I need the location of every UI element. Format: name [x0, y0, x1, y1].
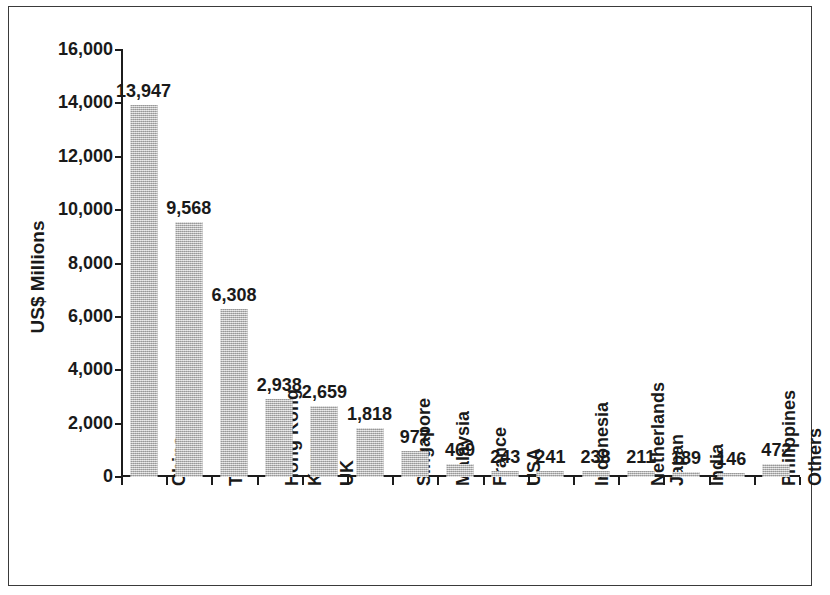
bar-group: 2,659UK — [302, 50, 347, 477]
bar-group: 238Netherlands — [573, 50, 618, 477]
bar-group: 6,308Hong Kong — [211, 50, 256, 477]
bar — [672, 472, 699, 477]
bar-value-label: 6,308 — [211, 285, 256, 306]
bar-value-label: 2,938 — [257, 375, 302, 396]
bar-value-label: 146 — [716, 449, 746, 470]
bar — [627, 471, 654, 477]
bar — [537, 471, 564, 477]
bar-value-label: 469 — [445, 440, 475, 461]
bar-value-label: 2,659 — [302, 382, 347, 403]
bar-group: 472Others — [754, 50, 799, 477]
bar — [130, 105, 157, 477]
y-axis-tick-label: 0 — [103, 466, 113, 487]
plot-area: 16,00014,00012,00010,0008,0006,0004,0002… — [121, 50, 799, 477]
bar — [356, 428, 383, 477]
bar-group: 469France — [437, 50, 482, 477]
y-axis-tick-label: 4,000 — [68, 359, 113, 380]
bar-group: 211Japan — [618, 50, 663, 477]
y-axis-tick-label: 10,000 — [58, 199, 113, 220]
y-axis-tick-label: 2,000 — [68, 413, 113, 434]
bar — [718, 473, 745, 477]
bar-value-label: 472 — [761, 440, 791, 461]
x-axis-tick — [483, 477, 485, 485]
bar-value-label: 189 — [671, 448, 701, 469]
bar — [220, 309, 247, 477]
x-axis-tick — [573, 477, 575, 485]
bar-value-label: 13,947 — [116, 81, 171, 102]
bar — [582, 471, 609, 477]
x-axis-tick — [257, 477, 259, 485]
bar-group: 189India — [663, 50, 708, 477]
x-axis-tick — [121, 477, 123, 485]
bar — [175, 222, 202, 477]
bar-value-label: 9,568 — [166, 198, 211, 219]
y-axis-tick-label: 14,000 — [58, 92, 113, 113]
x-axis-tick — [437, 477, 439, 485]
bar — [401, 451, 428, 477]
bar-group: 241Indonesia — [528, 50, 573, 477]
y-axis-tick-label: 8,000 — [68, 253, 113, 274]
bar-group: 146Philippines — [709, 50, 754, 477]
bar-value-label: 211 — [626, 447, 655, 468]
y-axis-tick-label: 16,000 — [58, 39, 113, 60]
bar-group: 2,938Korea — [257, 50, 302, 477]
bar-value-label: 1,818 — [347, 404, 392, 425]
bar — [311, 406, 338, 477]
bar-value-label: 238 — [581, 447, 611, 468]
bar-value-label: 241 — [535, 447, 565, 468]
bar-group: 9,568Thailand — [166, 50, 211, 477]
y-axis-tick-label: 6,000 — [68, 306, 113, 327]
bar — [492, 471, 519, 477]
x-axis-tick — [211, 477, 213, 485]
x-axis-category-label: Others — [805, 428, 826, 486]
x-axis-tick — [754, 477, 756, 485]
bar — [266, 399, 293, 477]
figure-border: US$ Millions 16,00014,00012,00010,0008,0… — [8, 6, 812, 586]
x-axis-tick — [618, 477, 620, 485]
bar — [446, 464, 473, 477]
bar-group: 977Malaysia — [392, 50, 437, 477]
x-axis-tick — [166, 477, 168, 485]
bar — [763, 464, 790, 477]
bar-value-label: 977 — [400, 427, 430, 448]
bar-group: 1,818Singapore — [347, 50, 392, 477]
bar-group: 243USA — [483, 50, 528, 477]
bar-group: 13,947China — [121, 50, 166, 477]
y-axis-title-text: US$ Millions — [27, 221, 49, 334]
y-axis-title: US$ Millions — [23, 192, 53, 362]
x-axis-tick — [392, 477, 394, 485]
bar-value-label: 243 — [490, 447, 520, 468]
y-axis-tick-label: 12,000 — [58, 146, 113, 167]
chart-figure: US$ Millions 16,00014,00012,00010,0008,0… — [0, 0, 830, 595]
